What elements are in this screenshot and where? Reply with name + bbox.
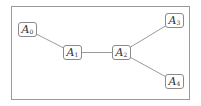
node-label: A bbox=[116, 46, 124, 59]
node-subscript: 0 bbox=[30, 28, 34, 35]
node-subscript: 2 bbox=[124, 51, 128, 58]
node-subscript: 4 bbox=[177, 80, 181, 87]
node-a3: A3 bbox=[165, 13, 184, 28]
node-a0: A0 bbox=[18, 22, 37, 37]
node-subscript: 3 bbox=[177, 19, 181, 26]
node-label: A bbox=[22, 23, 30, 36]
node-a4: A4 bbox=[165, 74, 184, 89]
node-label: A bbox=[169, 14, 177, 27]
node-subscript: 1 bbox=[75, 51, 79, 58]
node-a1: A1 bbox=[63, 45, 82, 60]
node-a2: A2 bbox=[112, 45, 131, 60]
node-label: A bbox=[169, 75, 177, 88]
node-label: A bbox=[67, 46, 75, 59]
